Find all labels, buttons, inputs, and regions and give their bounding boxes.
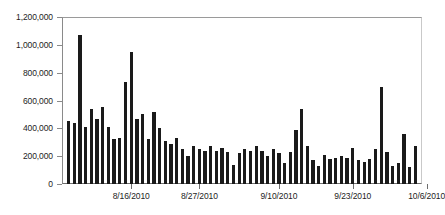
bar <box>141 114 144 184</box>
bar <box>112 139 115 184</box>
bar <box>107 127 110 184</box>
bar <box>135 119 138 184</box>
bar <box>408 167 411 184</box>
y-axis-tick-label: 800,000 <box>23 68 53 77</box>
y-axis-tick-label: 600,000 <box>23 96 53 105</box>
x-axis-tick-mark <box>279 184 280 189</box>
bar <box>147 139 150 184</box>
bar <box>73 123 76 184</box>
x-axis-tick-mark <box>427 184 428 189</box>
bar <box>232 165 235 184</box>
bar <box>317 166 320 184</box>
bar <box>209 146 212 184</box>
bars-layer <box>63 17 421 184</box>
bar <box>249 151 252 184</box>
y-axis-tick-label: 400,000 <box>23 124 53 133</box>
x-axis-tick-label: 10/6/2010 <box>408 191 445 201</box>
bar <box>402 134 405 184</box>
bar <box>334 158 337 184</box>
bar <box>340 156 343 184</box>
bar <box>260 151 263 184</box>
bar <box>152 112 155 184</box>
bar <box>226 152 229 184</box>
bar <box>90 109 93 184</box>
bar <box>345 158 348 184</box>
bar <box>323 155 326 184</box>
bar <box>385 152 388 184</box>
bar <box>306 146 309 184</box>
bar <box>164 141 167 184</box>
y-axis-tick-mark <box>57 101 62 102</box>
bar <box>95 119 98 184</box>
x-axis-tick-label: 8/16/2010 <box>113 191 150 201</box>
bar <box>158 128 161 184</box>
x-axis-tick-mark <box>131 184 132 189</box>
bar <box>220 148 223 184</box>
bar <box>283 163 286 184</box>
bar <box>368 159 371 184</box>
bar <box>101 107 104 184</box>
bar <box>175 138 178 184</box>
bar <box>380 87 383 184</box>
bar <box>374 149 377 184</box>
bar <box>272 149 275 184</box>
bar <box>67 121 70 184</box>
bar <box>78 35 81 184</box>
bar <box>414 146 417 184</box>
bar <box>238 153 241 184</box>
bar <box>277 153 280 184</box>
bar <box>198 149 201 184</box>
y-axis-tick-mark <box>57 17 62 18</box>
bar <box>243 149 246 184</box>
x-axis-tick-mark <box>199 184 200 189</box>
y-axis-tick-label: 200,000 <box>23 152 53 161</box>
bar <box>255 146 258 184</box>
bar <box>351 148 354 184</box>
bar <box>357 160 360 184</box>
bar <box>192 146 195 184</box>
x-axis: 8/16/20108/27/20109/10/20109/23/201010/6… <box>62 184 422 215</box>
bar <box>294 130 297 184</box>
bar <box>328 159 331 184</box>
bar <box>130 52 133 184</box>
x-axis-tick-mark <box>353 184 354 189</box>
y-axis-tick-mark <box>57 73 62 74</box>
y-axis-tick-mark <box>57 128 62 129</box>
bar <box>363 162 366 184</box>
y-axis-tick-mark <box>57 156 62 157</box>
bar <box>266 156 269 184</box>
y-axis-tick-mark <box>57 45 62 46</box>
bar <box>118 138 121 184</box>
x-axis-tick-label: 9/23/2010 <box>334 191 371 201</box>
bar <box>181 149 184 184</box>
bar <box>203 151 206 184</box>
bar <box>215 151 218 184</box>
bar <box>186 156 189 184</box>
bar <box>169 144 172 184</box>
bar <box>397 163 400 184</box>
y-axis-tick-label: 1,200,000 <box>16 13 53 22</box>
bar <box>124 82 127 184</box>
y-axis: 0200,000400,000600,000800,0001,000,0001,… <box>0 0 62 215</box>
x-axis-tick-label: 8/27/2010 <box>181 191 218 201</box>
bar <box>84 127 87 184</box>
bar <box>300 109 303 184</box>
x-axis-tick-label: 9/10/2010 <box>260 191 297 201</box>
bar <box>311 160 314 184</box>
bar <box>391 166 394 184</box>
bar <box>289 152 292 184</box>
y-axis-tick-label: 0 <box>48 180 53 189</box>
y-axis-tick-label: 1,000,000 <box>16 40 53 49</box>
